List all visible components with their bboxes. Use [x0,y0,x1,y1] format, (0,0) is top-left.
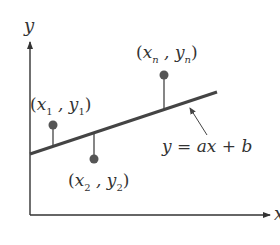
line-equation-label: y = ax + b [161,136,252,156]
regression-diagram: y x (x1 , y1) (x2 , y2) (xn , yn) y = ax… [0,0,280,245]
y-axis-label: y [23,15,35,36]
data-point-n [160,71,169,80]
data-point-1 [49,121,58,130]
equation-leader-arrow [190,108,207,135]
point-label-1: (x1 , y1) [30,94,91,117]
point-label-2: (x2 , y2) [68,170,129,193]
point-label-n: (xn , yn) [136,42,198,65]
x-axis-label: x [274,203,280,224]
data-point-2 [90,155,99,164]
